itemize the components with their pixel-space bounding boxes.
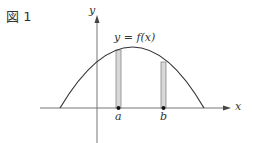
strip-at-a (116, 50, 121, 108)
function-graph (0, 0, 253, 143)
x-axis-arrow-icon (223, 106, 231, 111)
curve-label: y = f(x) (114, 31, 155, 44)
y-axis-label: y (89, 4, 95, 17)
y-axis-arrow-icon (95, 15, 100, 23)
point-a-label: a (115, 110, 122, 123)
curve-f (60, 47, 204, 108)
point-b-label: b (160, 110, 167, 123)
x-axis-label: x (235, 100, 241, 113)
strip-at-b (161, 62, 166, 108)
